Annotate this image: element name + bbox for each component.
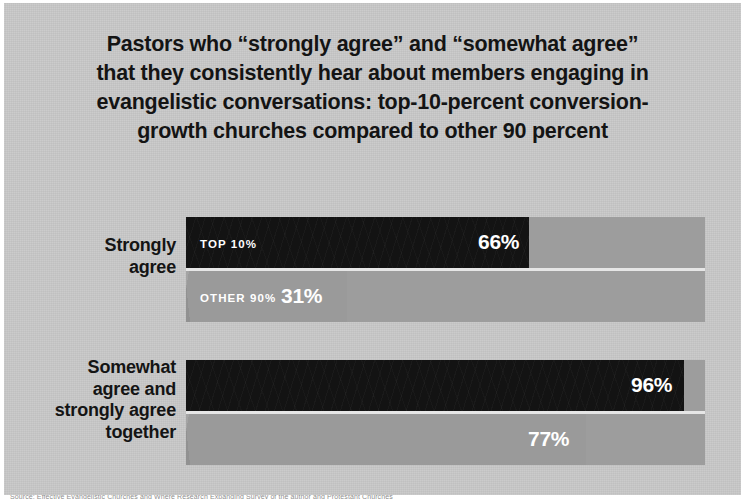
value-label-other90-somewhat-and-strongly-agree: 77% xyxy=(528,427,569,451)
bar-group-somewhat-and-strongly-agree: Somewhat agree and strongly agree togeth… xyxy=(4,357,741,467)
bar-other90-somewhat-and-strongly-agree xyxy=(186,414,586,465)
chart-plot-area: Strongly agree TOP 10% 66% OTHER 90% 31% xyxy=(4,3,741,495)
bar-group-strongly-agree: Strongly agree TOP 10% 66% OTHER 90% 31% xyxy=(4,214,741,324)
series-tag-top10: TOP 10% xyxy=(200,238,257,250)
group-label-somewhat-and-strongly-agree: Somewhat agree and strongly agree togeth… xyxy=(4,357,176,443)
source-note: Source: Effective Evangelistic Churches … xyxy=(10,495,393,499)
value-label-top10-somewhat-and-strongly-agree: 96% xyxy=(631,373,672,397)
bar-row-top10-strongly-agree xyxy=(186,217,705,268)
value-label-other90-strongly-agree: 31% xyxy=(281,284,322,308)
bar-row-top10-somewhat-and-strongly-agree xyxy=(186,360,705,411)
bar-track-strongly-agree xyxy=(186,217,705,322)
bar-row-other90-somewhat-and-strongly-agree xyxy=(186,414,705,465)
bar-track-somewhat-and-strongly-agree xyxy=(186,360,705,465)
series-tag-other90: OTHER 90% xyxy=(200,292,276,304)
bar-top10-somewhat-and-strongly-agree xyxy=(186,360,684,411)
value-label-top10-strongly-agree: 66% xyxy=(478,230,519,254)
figure-panel: Pastors who “strongly agree” and “somewh… xyxy=(4,3,741,495)
source-strip: Source: Effective Evangelistic Churches … xyxy=(4,495,741,499)
group-label-strongly-agree: Strongly agree xyxy=(4,235,176,278)
